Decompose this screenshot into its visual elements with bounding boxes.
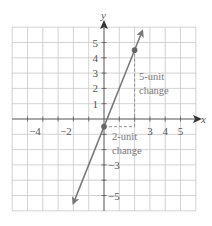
rise-annotation-line2: change [139,85,169,96]
y-tick-label: 5 [93,37,99,49]
run-annotation-line1: 2-unit [112,131,137,142]
y-axis-label: y [100,9,106,21]
x-tick-label: 5 [178,125,184,137]
x-tick-label: 4 [162,125,168,137]
x-tick-label: −4 [29,125,41,137]
point-2-4.5 [132,47,138,53]
x-tick-label: −2 [60,125,72,137]
y-tick-label: 3 [93,67,99,79]
point-y-intercept [101,124,107,130]
coordinate-plane: y x −4 −2 3 4 5 5 4 3 2 1 −3 −5 5-unit c… [0,0,212,226]
y-tick-label: 1 [93,98,99,110]
x-axis-label: x [200,113,206,125]
rise-annotation-line1: 5-unit [139,71,164,82]
y-tick-label: 4 [93,52,99,64]
y-tick-label: 2 [93,82,99,94]
y-tick-label: −5 [108,190,120,202]
run-annotation-line2: change [112,145,142,156]
y-tick-label: −3 [108,159,120,171]
x-tick-label: 3 [147,125,153,137]
graph-line [104,31,142,127]
